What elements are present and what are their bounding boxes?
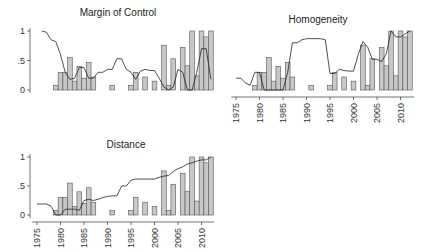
bar-2007	[185, 66, 190, 90]
x-tick-label: 1990	[302, 103, 312, 123]
bar-1980	[58, 72, 63, 90]
bar-2010	[199, 31, 204, 90]
panel-distance: Distance 0.51197519801985199019952000200…	[17, 139, 214, 248]
bar-2006	[180, 173, 185, 215]
bar-1983	[271, 81, 276, 90]
bar-1987	[290, 77, 295, 90]
bar-1995	[129, 85, 134, 90]
y-tick-label: 0	[20, 85, 25, 95]
bar-2000	[152, 81, 157, 90]
bar-1991	[110, 210, 115, 215]
bar-1982	[267, 58, 272, 90]
bar-2003	[365, 85, 370, 90]
bar-2012	[209, 157, 214, 215]
bar-1998	[143, 77, 148, 90]
bar-2006	[379, 48, 384, 90]
bar-1981	[262, 72, 267, 90]
bar-1985	[82, 78, 87, 90]
bar-1987	[91, 77, 96, 90]
bar-2009	[393, 76, 398, 90]
bar-2002	[162, 171, 167, 215]
x-tick-label: 1980	[56, 228, 66, 248]
bar-2000	[351, 81, 356, 90]
bar-1998	[143, 202, 148, 215]
bar-2012	[408, 31, 413, 90]
bar-1981	[63, 198, 68, 215]
bar-1979	[53, 85, 58, 90]
bar-1996	[133, 72, 138, 90]
bar-1996	[133, 198, 138, 215]
y-tick-label: 1	[20, 152, 25, 162]
bar-2011	[204, 37, 209, 90]
panel-title: Margin of Control	[80, 7, 157, 18]
bar-1996	[332, 72, 337, 90]
x-tick-label: 2000	[349, 103, 359, 123]
y-tick-label: 0	[20, 210, 25, 220]
bar-2007	[185, 191, 190, 215]
bar-1995	[328, 85, 333, 90]
bar-2012	[209, 31, 214, 90]
bar-1986	[86, 188, 91, 215]
x-tick-label: 1975	[32, 228, 42, 248]
panel-title: Distance	[107, 139, 146, 150]
x-tick-label: 1985	[278, 103, 288, 123]
x-tick-label: 1980	[255, 103, 265, 123]
bar-2004	[171, 184, 176, 215]
bar-1983	[72, 81, 77, 90]
x-tick-label: 2010	[197, 228, 207, 248]
x-tick-label: 1990	[103, 228, 113, 248]
x-tick-label: 2005	[173, 228, 183, 248]
bar-2011	[403, 37, 408, 90]
bar-1985	[82, 203, 87, 215]
bar-2008	[190, 31, 195, 90]
bar-1986	[285, 62, 290, 90]
x-tick-label: 2010	[396, 103, 406, 123]
x-tick-label: 2005	[372, 103, 382, 123]
bar-1979	[252, 85, 257, 90]
bar-1987	[91, 202, 96, 215]
bar-1982	[68, 58, 73, 90]
y-tick-label: .5	[17, 181, 25, 191]
panel-title: Homogeneity	[289, 14, 348, 25]
panel-homogeneity: Homogeneity 1975198019851990199520002005…	[231, 14, 414, 123]
bar-2008	[190, 157, 195, 215]
x-tick-label: 1995	[126, 228, 136, 248]
bar-2003	[166, 210, 171, 215]
bar-2009	[194, 201, 199, 215]
bar-1991	[110, 85, 115, 90]
x-tick-label: 1975	[231, 103, 241, 123]
bar-1984	[276, 66, 281, 90]
bar-1983	[72, 206, 77, 215]
bar-1995	[129, 210, 134, 215]
bar-1991	[309, 85, 314, 90]
bar-2004	[171, 59, 176, 90]
bar-1984	[77, 66, 82, 90]
bar-1998	[342, 77, 347, 90]
bar-2010	[398, 31, 403, 90]
bar-1986	[86, 62, 91, 90]
bar-2004	[370, 59, 375, 90]
bar-2002	[361, 45, 366, 90]
bar-2011	[204, 163, 209, 215]
bar-1982	[68, 183, 73, 215]
bar-2000	[152, 206, 157, 215]
figure-canvas: Margin of Control 0.51 Homogeneity 19751…	[0, 0, 429, 252]
y-tick-label: 1	[20, 26, 25, 36]
bar-2010	[199, 157, 204, 215]
bar-2007	[384, 66, 389, 90]
x-tick-label: 1985	[79, 228, 89, 248]
bar-1984	[77, 192, 82, 215]
bar-1980	[257, 72, 262, 90]
panel-margin-of-control: Margin of Control 0.51	[17, 7, 213, 95]
x-tick-label: 2000	[150, 228, 160, 248]
bar-2006	[180, 48, 185, 90]
x-tick-label: 1995	[325, 103, 335, 123]
y-tick-label: .5	[17, 56, 25, 66]
